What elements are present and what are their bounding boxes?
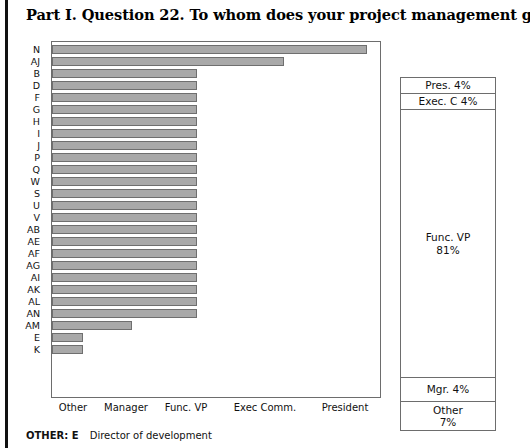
bar-row [52,140,382,152]
legend-label-exec-committee: Exec. C 4% [419,95,478,108]
y-axis-label: AB [0,224,46,236]
bar [52,141,197,150]
bar-row [52,44,382,56]
bar [52,93,197,102]
bar-row [52,200,382,212]
y-axis-label: G [0,104,46,116]
y-axis-label: AF [0,248,46,260]
footnote: OTHER: E Director of development [26,430,212,441]
legend-value-functional-vp: 81% [436,244,459,257]
footnote-label: OTHER: E [26,430,79,441]
legend-label-functional-vp: Func. VP [426,231,471,244]
bar-series [52,44,382,396]
y-axis-label: I [0,128,46,140]
y-axis-label: D [0,80,46,92]
bar [52,345,83,354]
y-axis-label: AJ [0,56,46,68]
x-axis-tick-label: Exec Comm. [234,402,297,413]
bar [52,309,197,318]
bar [52,105,197,114]
bar-row [52,116,382,128]
x-axis-tick-label: Other [59,402,87,413]
y-axis-label: B [0,68,46,80]
bar-row [52,92,382,104]
y-axis-label: J [0,140,46,152]
y-axis-label: AI [0,272,46,284]
bar-row [52,260,382,272]
bar [52,297,197,306]
bar-row [52,296,382,308]
legend-label-manager: Mgr. 4% [427,383,469,396]
legend-item-president: Pres. 4% [401,78,495,94]
y-axis-label: W [0,176,46,188]
bar [52,69,197,78]
bar-row [52,104,382,116]
x-axis-tick-label: President [322,402,369,413]
bar [52,333,83,342]
bar [52,81,197,90]
bar-chart: NAJBDFGHIJPQWSUVABAEAFAGAIAKALANAMEK Oth… [0,36,530,404]
bar-row [52,272,382,284]
legend-item-exec-committee: Exec. C 4% [401,94,495,110]
bar [52,117,197,126]
bar-row [52,176,382,188]
y-axis-label: U [0,200,46,212]
y-axis-label: AL [0,296,46,308]
legend-item-other: Other 7% [401,402,495,430]
bar-row [52,56,382,68]
bar-row [52,152,382,164]
legend-item-functional-vp: Func. VP 81% [401,110,495,378]
footnote-text: Director of development [90,430,212,441]
bar-row [52,308,382,320]
bar [52,177,197,186]
bar-row [52,332,382,344]
y-axis-label: AM [0,320,46,332]
bar-row [52,320,382,332]
y-axis-label: AE [0,236,46,248]
y-axis-label: K [0,344,46,356]
bar-row [52,212,382,224]
y-axis-label: AN [0,308,46,320]
y-axis-label: V [0,212,46,224]
y-axis-label: F [0,92,46,104]
bar [52,57,284,66]
bar [52,201,197,210]
legend-value-other: 7% [440,416,457,429]
bar-row [52,224,382,236]
bar [52,153,197,162]
page-title: Part I. Question 22. To whom does your p… [26,6,526,23]
x-axis-tick-label: Manager [104,402,148,413]
legend-label-president: Pres. 4% [425,79,471,92]
y-axis-label: H [0,116,46,128]
bar [52,129,197,138]
bar [52,321,132,330]
y-axis-label: AK [0,284,46,296]
y-axis-label: Q [0,164,46,176]
y-axis-label: E [0,332,46,344]
y-axis-label: P [0,152,46,164]
bar-row [52,236,382,248]
bar-row [52,164,382,176]
bar-row [52,284,382,296]
legend-item-manager: Mgr. 4% [401,378,495,402]
y-axis-label: N [0,44,46,56]
bar [52,189,197,198]
bar-row [52,80,382,92]
y-axis-label: S [0,188,46,200]
bar [52,261,197,270]
bar [52,213,197,222]
bar-row [52,344,382,356]
bar [52,165,197,174]
bar-row [52,68,382,80]
bar [52,249,197,258]
legend-label-other: Other [433,404,463,417]
bar [52,273,197,282]
bar-row [52,188,382,200]
legend-panel: Pres. 4% Exec. C 4% Func. VP 81% Mgr. 4%… [400,77,496,431]
bar [52,225,197,234]
bar-row [52,248,382,260]
bar [52,45,367,54]
y-axis-labels: NAJBDFGHIJPQWSUVABAEAFAGAIAKALANAMEK [0,44,46,396]
bar [52,237,197,246]
bar [52,285,197,294]
